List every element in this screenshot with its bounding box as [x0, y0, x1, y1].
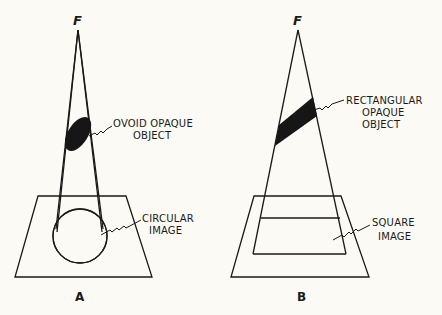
image-label-a-line1: CIRCULAR [142, 213, 194, 224]
panel-b: F RECTANGULAR OPAQUE OBJECT SQUARE IMAGE… [231, 13, 423, 304]
object-label-a-line2: OBJECT [133, 130, 172, 141]
rectangular-opaque-object [275, 97, 317, 146]
focal-spot-label-b: F [293, 13, 302, 28]
image-label-b-line2: IMAGE [378, 231, 411, 242]
object-label-b-line3: OBJECT [362, 119, 401, 130]
image-plane-a [15, 196, 152, 277]
leader-object-a [89, 126, 112, 136]
object-label-a-line1: OVOID OPAQUE [113, 118, 193, 129]
image-label-a-line2: IMAGE [149, 225, 182, 236]
object-label-b-line2: OPAQUE [362, 107, 405, 118]
diagram-canvas: F OVOID OPAQUE OBJECT CIRCULAR IMAGE A F [0, 0, 442, 315]
object-label-b-line1: RECTANGULAR [346, 95, 423, 106]
panel-label-b: B [297, 290, 306, 304]
leader-object-b [314, 100, 344, 110]
circular-image-outline [53, 209, 107, 263]
beam-edge-right-b [298, 30, 346, 254]
panel-a: F OVOID OPAQUE OBJECT CIRCULAR IMAGE A [15, 13, 194, 304]
focal-spot-label-a: F [73, 13, 82, 28]
image-label-b-line1: SQUARE [372, 217, 415, 228]
beam-edge-left-b [253, 30, 298, 254]
panel-label-a: A [75, 290, 85, 304]
image-plane-b [231, 196, 369, 277]
